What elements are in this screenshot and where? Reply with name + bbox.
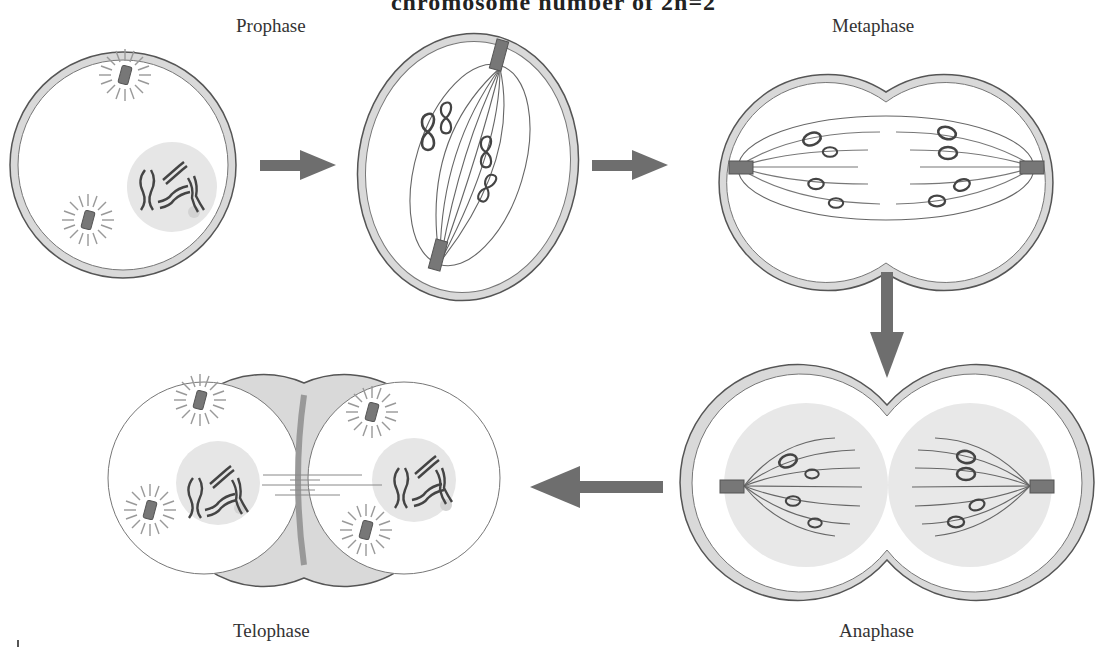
prophase-cell xyxy=(10,49,236,278)
centrosome-icon xyxy=(1020,161,1044,174)
metaphase-cell xyxy=(719,75,1053,291)
centrosome-icon xyxy=(720,480,744,493)
prometaphase-cell xyxy=(340,19,595,315)
arrow-right-icon xyxy=(592,150,668,180)
diagram-canvas xyxy=(0,0,1107,650)
arrow-down-icon xyxy=(870,272,904,378)
mitosis-diagram: chromosome number of 2n=2 Prophase Metap… xyxy=(0,0,1107,650)
telophase-cell xyxy=(108,374,500,587)
arrow-right-icon xyxy=(260,150,336,180)
anaphase-cell xyxy=(680,365,1094,601)
centrosome-icon xyxy=(1030,480,1054,493)
daughter-nucleus xyxy=(724,403,888,567)
centrosome-icon xyxy=(729,161,753,174)
arrow-left-icon xyxy=(530,466,663,508)
